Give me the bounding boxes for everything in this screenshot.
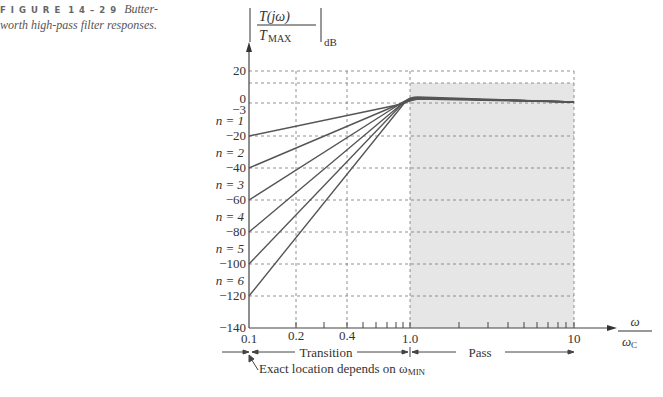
svg-text:20: 20	[233, 63, 246, 78]
y-tick-labels: 20 0 −3 −20 −40 −60 −80 −100 −120 −140	[219, 63, 246, 335]
y-axis-title: T(jω) T MAX dB	[250, 8, 337, 48]
svg-text:−20: −20	[226, 128, 246, 143]
svg-text:ω: ω	[630, 314, 639, 329]
pass-label: Pass	[468, 345, 491, 360]
y-axis-unit: dB	[324, 36, 337, 48]
svg-text:n = 1: n = 1	[216, 113, 244, 128]
svg-text:−40: −40	[226, 160, 246, 175]
svg-text:0.1: 0.1	[241, 331, 257, 346]
svg-text:n = 4: n = 4	[216, 209, 245, 224]
y-axis-denominator-sub: MAX	[268, 33, 292, 44]
x-axis-title: ω ω C	[618, 314, 652, 350]
y-axis-arrow-icon	[246, 42, 252, 52]
transition-label: Transition	[300, 345, 353, 360]
exact-location-note: Exact location depends on ωMIN	[259, 361, 426, 377]
svg-text:ω: ω	[622, 334, 631, 349]
svg-text:0.4: 0.4	[339, 328, 356, 343]
x-tick-labels: 0.1 0.2 0.4 1.0 10	[241, 328, 581, 346]
svg-text:n = 3: n = 3	[216, 177, 245, 192]
x-axis-arrow-icon	[607, 325, 617, 331]
svg-text:0.2: 0.2	[288, 328, 304, 343]
svg-text:−120: −120	[219, 288, 246, 303]
svg-text:−100: −100	[219, 256, 246, 271]
svg-text:n = 6: n = 6	[216, 273, 245, 288]
svg-text:−60: −60	[226, 192, 246, 207]
svg-text:10: 10	[568, 331, 581, 346]
bode-chart: T(jω) T MAX dB 20 0 −3 −20 −40 −60 −80 −…	[0, 0, 663, 397]
svg-text:n = 5: n = 5	[216, 241, 245, 256]
svg-text:C: C	[631, 340, 637, 350]
svg-text:−80: −80	[226, 224, 246, 239]
y-axis-numerator: T(jω)	[259, 9, 290, 25]
svg-text:1.0: 1.0	[402, 331, 418, 346]
pass-band-shading	[410, 83, 574, 328]
svg-text:n = 2: n = 2	[216, 145, 245, 160]
y-axis-denominator: T	[259, 28, 268, 43]
